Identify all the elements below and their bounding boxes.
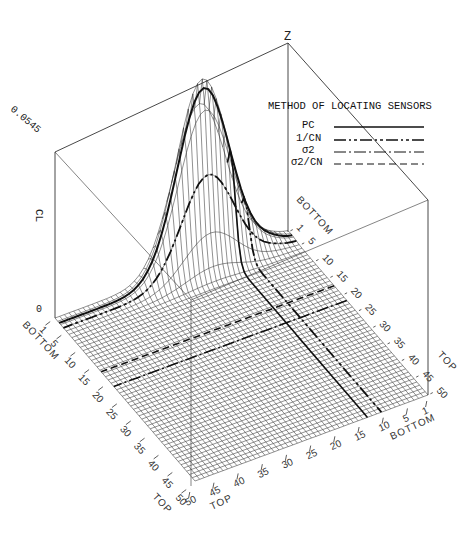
tick-label: 50 — [435, 385, 451, 401]
left-axis-top-label: TOP — [151, 491, 175, 516]
tick-mark — [402, 359, 404, 360]
tick-label: 15 — [335, 268, 351, 284]
tick-mark — [302, 243, 304, 244]
tick-label: 10 — [320, 252, 336, 268]
tick-mark — [345, 293, 347, 294]
tick-mark — [359, 309, 361, 310]
sensor-curve — [227, 150, 367, 418]
tick-label: 15 — [76, 372, 92, 388]
tick-mark — [373, 326, 375, 327]
tick-label: 35 — [392, 335, 408, 351]
legend: METHOD OF LOCATING SENSORS PC 1/CN σ2 σ2… — [268, 100, 432, 168]
tick-label: 35 — [132, 440, 148, 456]
tick-mark — [388, 343, 390, 344]
tick-label: 35 — [256, 465, 271, 480]
right-axis-bottom-label: BOTTOM — [388, 411, 437, 442]
tick-mark — [316, 260, 318, 261]
z-axis-letter: Z — [284, 30, 291, 44]
tick-mark — [290, 230, 292, 231]
tick-label: 5 — [306, 235, 318, 247]
tick-label: 40 — [232, 474, 247, 489]
tick-label: 45 — [420, 368, 436, 384]
tick-mark — [330, 276, 332, 277]
surface-plot: Z 0.0545 0 CL METHOD OF LOCATING SENSORS… — [0, 0, 471, 534]
legend-title: METHOD OF LOCATING SENSORS — [268, 100, 432, 112]
z-max-tick: 0.0545 — [8, 104, 43, 136]
tick-label: 30 — [377, 318, 393, 334]
tick-label: 40 — [406, 352, 422, 368]
tick-label: 25 — [304, 447, 319, 462]
z-zero-tick: 0 — [36, 304, 42, 315]
tick-label: 40 — [146, 458, 162, 474]
tick-label: 25 — [363, 302, 379, 318]
legend-label-s2: σ2 — [302, 144, 315, 156]
tick-label: 25 — [104, 406, 120, 422]
tick-label: 10 — [63, 355, 79, 371]
tick-label: 1 — [295, 222, 307, 234]
tick-label: 20 — [328, 437, 343, 452]
right-axis-top-label: TOP — [436, 349, 460, 374]
legend-label-s2cn: σ2/CN — [291, 156, 323, 168]
tick-label: 30 — [118, 423, 134, 439]
tick-label: 20 — [90, 389, 106, 405]
tick-mark — [416, 376, 418, 377]
legend-label-pc: PC — [302, 119, 315, 131]
tick-label: 45 — [160, 475, 176, 491]
back-axis-ticks: 15101520253035404550 — [290, 222, 450, 401]
z-axis-name: CL — [33, 209, 45, 222]
tick-mark — [430, 393, 432, 394]
tick-label: 20 — [349, 285, 365, 301]
tick-label: 30 — [280, 456, 295, 471]
legend-label-1cn: 1/CN — [296, 132, 321, 144]
tick-label: 15 — [352, 428, 367, 443]
